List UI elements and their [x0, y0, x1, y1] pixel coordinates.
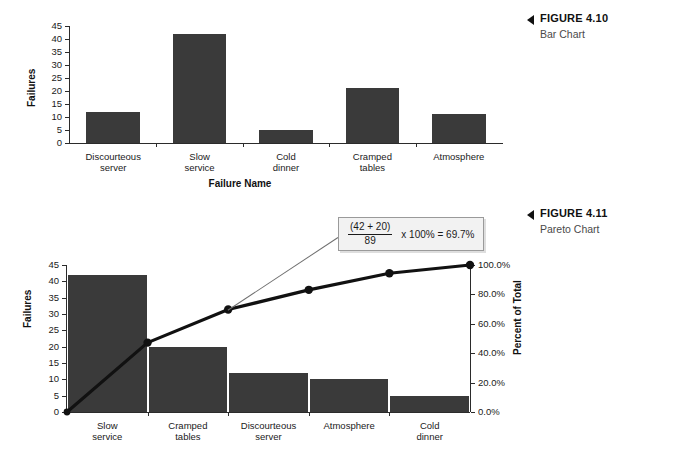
- x-axis-line: [69, 143, 503, 144]
- y-tick: [65, 65, 69, 66]
- x-category-line: Slow: [152, 151, 248, 162]
- x-tick: [156, 143, 157, 147]
- cumulative-line-path: [67, 265, 470, 412]
- y-tick: [65, 143, 69, 144]
- figure-label: FIGURE 4.11: [540, 207, 608, 219]
- y-axis-line: [69, 26, 70, 143]
- y-tick-label: 40: [36, 34, 62, 44]
- cumulative-point-marker: [385, 269, 393, 277]
- x-category-line: Discourteous: [65, 151, 161, 162]
- callout-expression: x 100% = 69.7%: [401, 229, 474, 240]
- bar: [432, 114, 486, 143]
- cumulative-point-marker: [305, 286, 313, 294]
- cumulative-point-marker: [143, 338, 151, 346]
- x-category-label: Colddinner: [238, 151, 334, 173]
- y-tick-label: 10: [36, 112, 62, 122]
- y-tick: [65, 91, 69, 92]
- figure-caption-4-10: FIGURE 4.10 Bar Chart: [527, 12, 608, 40]
- x-category-line: dinner: [238, 162, 334, 173]
- y-tick-label: 35: [36, 47, 62, 57]
- x-tick: [243, 143, 244, 147]
- cumulative-point-marker: [64, 409, 71, 416]
- y-tick-label: 15: [36, 99, 62, 109]
- x-category-label: Crampedtables: [324, 151, 420, 173]
- bar: [346, 88, 400, 143]
- fraction-numerator: (42 + 20): [348, 222, 392, 233]
- percent-callout: (42 + 20) 89 x 100% = 69.7%: [338, 217, 484, 251]
- figure-subtitle: Pareto Chart: [540, 223, 608, 235]
- x-category-line: service: [152, 162, 248, 173]
- pareto-chart: Failures Percent of Total 05101520253035…: [0, 210, 530, 469]
- bar: [259, 130, 313, 143]
- x-category-line: tables: [324, 162, 420, 173]
- y-tick: [65, 130, 69, 131]
- x-category-label: Slowservice: [152, 151, 248, 173]
- y-tick: [65, 78, 69, 79]
- bar-chart: Failures 051015202530354045 Discourteous…: [0, 0, 520, 200]
- x-tick: [416, 143, 417, 147]
- figure-caption-4-11: FIGURE 4.11 Pareto Chart: [527, 207, 608, 235]
- figure-subtitle: Bar Chart: [540, 28, 608, 40]
- fraction-denominator: 89: [365, 236, 376, 247]
- y-tick: [65, 26, 69, 27]
- bar: [173, 34, 227, 143]
- y-tick-label: 25: [36, 73, 62, 83]
- y-tick: [65, 117, 69, 118]
- y-tick-label: 0: [36, 138, 62, 148]
- x-category-label: Atmosphere: [411, 151, 507, 162]
- y-tick: [65, 52, 69, 53]
- x-category-line: server: [65, 162, 161, 173]
- figure-label: FIGURE 4.10: [540, 12, 608, 24]
- y-tick: [65, 39, 69, 40]
- x-category-line: Cramped: [324, 151, 420, 162]
- left-triangle-icon: [527, 15, 534, 25]
- x-category-line: Atmosphere: [411, 151, 507, 162]
- y-tick-label: 5: [36, 125, 62, 135]
- x-axis-title: Failure Name: [170, 178, 310, 189]
- y-tick-label: 30: [36, 60, 62, 70]
- y-tick-label: 45: [36, 21, 62, 31]
- bar: [86, 112, 140, 143]
- x-category-label: Discourteousserver: [65, 151, 161, 173]
- cumulative-point-marker: [466, 261, 474, 269]
- x-category-line: Cold: [238, 151, 334, 162]
- y-tick: [65, 104, 69, 105]
- fraction: (42 + 20) 89: [348, 222, 392, 246]
- x-tick: [329, 143, 330, 147]
- y-tick-label: 20: [36, 86, 62, 96]
